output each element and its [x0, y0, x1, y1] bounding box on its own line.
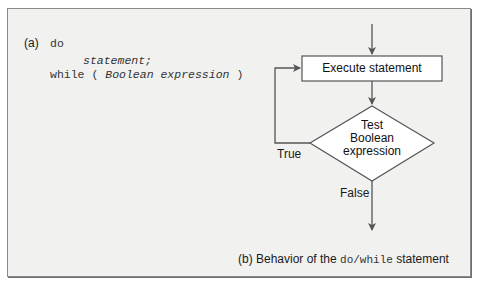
caption-suffix: statement — [396, 252, 449, 266]
caption-code: do/while — [340, 254, 393, 266]
decision-line-3: expression — [322, 145, 422, 158]
execute-statement-label: Execute statement — [302, 61, 442, 75]
false-label: False — [340, 186, 369, 200]
true-label: True — [277, 147, 301, 161]
caption-prefix: (b) Behavior of the — [238, 252, 337, 266]
decision-text: Test Boolean expression — [322, 119, 422, 158]
part-b-caption: (b) Behavior of the do/while statement — [238, 252, 449, 266]
